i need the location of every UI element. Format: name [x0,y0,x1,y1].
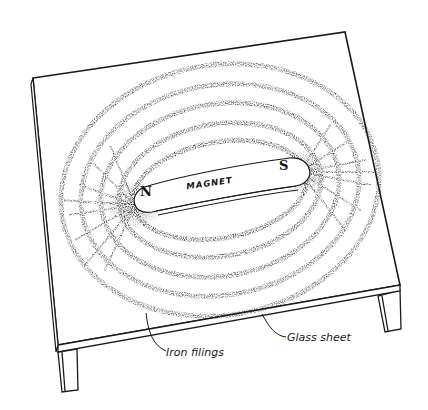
south-pole-label: S [279,158,288,173]
table-leg-right [378,290,401,332]
glass-sheet-leader-line [262,314,286,337]
magnetic-field-diagram: N S MAGNET Iron filings Glass sheet [0,0,428,410]
glass-sheet-label: Glass sheet [287,331,352,344]
iron-filings-label: Iron filings [166,346,224,359]
table-leg-left [58,349,78,392]
north-pole-label: N [140,184,152,199]
